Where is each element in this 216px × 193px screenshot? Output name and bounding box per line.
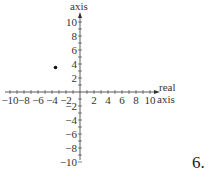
y-tick-label: −2 — [65, 100, 77, 112]
y-axis-label: axis — [70, 0, 88, 12]
y-tick-label: −4 — [65, 114, 77, 126]
x-tick-label: 6 — [119, 94, 125, 106]
y-tick-label: 4 — [72, 58, 78, 70]
problem-number: 6. — [192, 153, 205, 172]
y-tick-label: −8 — [65, 142, 77, 154]
y-arrow-icon — [78, 12, 82, 18]
y-tick-label: 2 — [72, 72, 78, 84]
y-tick-label: −6 — [65, 128, 77, 140]
x-tick-label: 10 — [145, 94, 157, 106]
x-tick-label: −8 — [18, 94, 30, 106]
y-tick-label: 6 — [72, 44, 78, 56]
y-tick-label: 10 — [66, 16, 78, 28]
y-tick-label: 8 — [72, 30, 78, 42]
data-points — [54, 66, 58, 70]
data-point — [54, 66, 58, 70]
x-tick-label: 4 — [105, 94, 111, 106]
x-tick-label: 2 — [91, 94, 97, 106]
x-tick-label: −10 — [1, 94, 19, 106]
axes — [5, 12, 160, 160]
x-tick-label: 8 — [133, 94, 139, 106]
x-tick-label: −6 — [32, 94, 44, 106]
x-axis-label-line2: axis — [157, 93, 175, 105]
y-tick-label: −10 — [60, 156, 78, 168]
x-tick-label: −4 — [46, 94, 58, 106]
x-axis-label-line1: real — [159, 81, 175, 93]
complex-plane-plot: −10−8−6−4−2246810−10−8−6−4−2246810 axis … — [0, 0, 216, 193]
